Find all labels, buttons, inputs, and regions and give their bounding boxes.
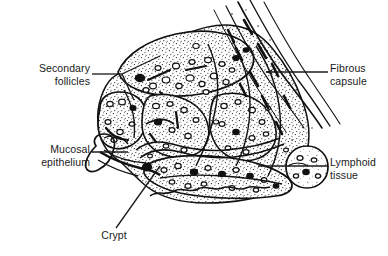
tonsil-histology-drawing — [0, 0, 388, 256]
epithelium-marker — [142, 163, 152, 172]
lymphoid-nodule — [286, 146, 328, 188]
label-mucosal-epithelium: Mucosal epithelium — [16, 143, 90, 168]
tissue-mass — [98, 25, 309, 203]
label-crypt: Crypt — [88, 229, 140, 242]
label-lymphoid-tissue: Lymphoid tissue — [330, 156, 388, 181]
label-fibrous-capsule: Fibrous capsule — [330, 62, 388, 87]
label-secondary-follicles: Secondary follicles — [6, 62, 90, 87]
figure-container: Secondary follicles Mucosal epithelium C… — [0, 0, 388, 256]
